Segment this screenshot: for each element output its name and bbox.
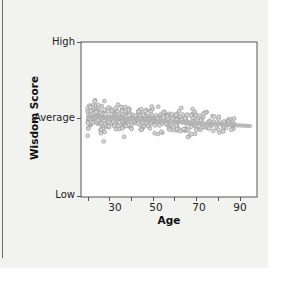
y-axis-title: Wisdom Score	[28, 76, 40, 160]
y-tick-label-average: Average	[15, 112, 75, 123]
x-axis-title: Age	[158, 214, 181, 226]
y-tick-label-high: High	[15, 36, 75, 47]
x-tick-label-70: 70	[192, 201, 205, 213]
x-tick-label-50: 50	[149, 201, 162, 213]
y-tick-marks	[77, 43, 81, 197]
x-tick-label-30: 30	[108, 201, 121, 213]
x-tick-label-90: 90	[233, 201, 246, 213]
y-tick-label-low: Low	[15, 189, 75, 200]
